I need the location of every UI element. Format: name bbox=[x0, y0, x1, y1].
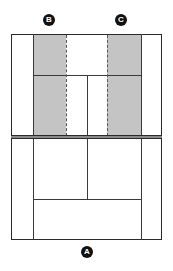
shaded-zone-right bbox=[107, 35, 141, 136]
center-service-line-bottom bbox=[87, 139, 88, 199]
label-badge-b: B bbox=[43, 14, 55, 26]
dashed-line-left bbox=[66, 35, 67, 136]
dashed-line-right bbox=[107, 35, 108, 136]
label-badge-a: A bbox=[81, 246, 93, 258]
center-service-line-top bbox=[87, 75, 88, 136]
label-badge-c: C bbox=[115, 14, 127, 26]
service-line-bottom bbox=[33, 199, 142, 200]
shaded-zone-left bbox=[34, 35, 66, 136]
